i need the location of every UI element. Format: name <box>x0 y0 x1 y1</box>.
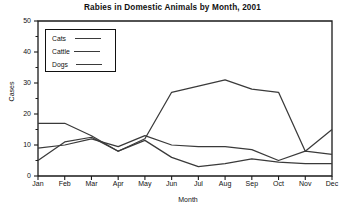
x-tick-dec: Dec <box>315 180 345 187</box>
y-tick-10: 10 <box>11 141 31 148</box>
legend-swatch-cattle <box>74 51 100 52</box>
legend-label-dogs: Dogs <box>52 61 68 68</box>
legend-label-cattle: Cattle <box>52 48 70 55</box>
y-tick-50: 50 <box>11 17 31 24</box>
series-line-cats <box>38 80 332 161</box>
chart-container: Rabies in Domestic Animals by Month, 200… <box>0 0 345 213</box>
y-tick-20: 20 <box>11 110 31 117</box>
legend-swatch-dogs <box>76 64 102 65</box>
legend-label-cats: Cats <box>52 35 66 42</box>
legend-swatch-cats <box>75 38 101 39</box>
y-tick-0: 0 <box>11 172 31 179</box>
y-tick-40: 40 <box>11 48 31 55</box>
y-tick-30: 30 <box>11 79 31 86</box>
chart-legend: Cats Cattle Dogs <box>45 29 116 72</box>
series-line-dogs <box>38 123 332 166</box>
